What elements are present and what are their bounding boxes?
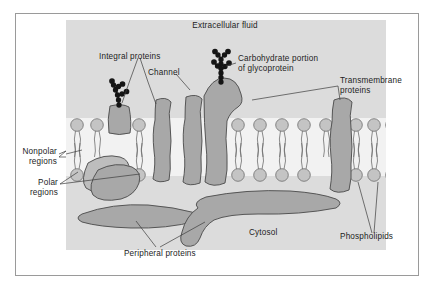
phospholipid-head [71, 169, 84, 182]
label-transmembrane-line1: Transmembrane [340, 76, 402, 86]
phospholipid-head [254, 169, 267, 182]
phospholipid-head [368, 169, 381, 182]
label-channel: Channel [148, 68, 180, 78]
phospholipid-head [232, 119, 245, 132]
phospholipid-head [276, 169, 289, 182]
phospholipid-head [276, 119, 289, 132]
label-carbohydrate-line2: of glycoprotein [238, 64, 294, 74]
label-carbohydrate-line1: Carbohydrate portion [238, 54, 318, 64]
figure-page: Extracellular fluid Integral proteins Ch… [0, 0, 435, 293]
phospholipid-head [91, 119, 104, 132]
label-polar-line1: Polar [0, 178, 58, 188]
label-nonpolar-line1: Nonpolar [0, 147, 57, 157]
label-integral-proteins: Integral proteins [99, 52, 161, 62]
integral-protein [108, 105, 131, 135]
phospholipid-head [386, 119, 399, 132]
label-transmembrane-line2: proteins [340, 86, 370, 96]
phospholipid-head [71, 119, 84, 132]
label-nonpolar-line2: regions [0, 157, 57, 167]
channel-protein-right [183, 95, 202, 184]
label-extracellular-fluid: Extracellular fluid [170, 21, 280, 31]
phospholipid-head [133, 119, 146, 132]
leader-nonpolar-bracket [59, 151, 66, 157]
transmembrane-protein-right [330, 98, 352, 192]
phospholipid-head [232, 169, 245, 182]
label-polar-line2: regions [0, 188, 58, 198]
phospholipid-head [254, 119, 267, 132]
label-peripheral-proteins: Peripheral proteins [124, 249, 196, 259]
phospholipid-head [368, 119, 381, 132]
phospholipid-head [298, 119, 311, 132]
label-phospholipids: Phospholipids [340, 232, 393, 242]
label-cytosol: Cytosol [249, 228, 277, 238]
phospholipid-head [350, 119, 363, 132]
phospholipid-head [386, 169, 399, 182]
channel-protein-left [153, 98, 171, 181]
membrane-diagram [0, 0, 435, 293]
phospholipid-head [298, 169, 311, 182]
